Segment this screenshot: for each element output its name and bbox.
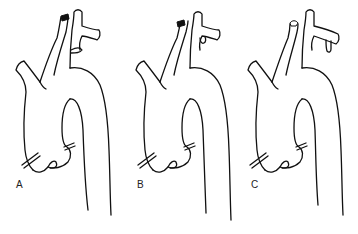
heart-vessels-drawing-a <box>0 0 120 234</box>
panel-a: A <box>0 0 120 234</box>
heart-vessels-drawing-c <box>238 0 358 234</box>
panel-label-a: A <box>16 180 23 190</box>
panel-label-c: C <box>251 180 258 190</box>
panel-c: C <box>238 0 358 234</box>
panel-label-b: B <box>137 180 144 190</box>
aortic-arch-variants-figure: A B <box>0 0 358 234</box>
heart-vessels-drawing-b <box>120 0 240 234</box>
panel-b: B <box>120 0 240 234</box>
